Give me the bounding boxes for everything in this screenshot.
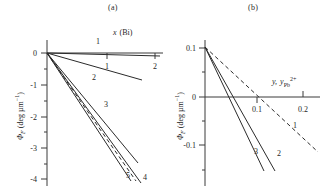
panel-b-xticklabel-0.2: 0.2 — [298, 105, 308, 114]
panel-b-yticklabel-0: 0 — [192, 93, 196, 102]
panel-a-curve-5 — [47, 53, 131, 181]
panel-a-yticklabel-0: 0 — [33, 49, 37, 58]
panel-a-curvelabel-4: 4 — [143, 173, 147, 182]
panel-a-yticklabel-1: -1 — [30, 81, 37, 90]
panel-a-curvelabel-5: 5 — [126, 171, 130, 180]
panel-a-curvelabel-2: 2 — [92, 73, 96, 82]
panel-a-x-axis-label: x(Bi) — [112, 28, 133, 37]
panel-b-yticklabel-neg0.1: -0.1 — [183, 141, 196, 150]
panel-b: (b) ΦF (deg µm−1) 0.1 0 -0.1 0.1 0.2 — [160, 0, 330, 190]
figure-container: (a) ΦF (deg µm−1) 0 -1 -2 -3 — [0, 0, 330, 190]
panel-b-x-axis-label: y,yPb2+ — [271, 76, 297, 88]
panel-b-plot: 0.1 0 -0.1 0.1 0.2 y,yPb2+ 1 2 3 — [160, 0, 330, 190]
panel-a-curvelabel-1: 1 — [96, 37, 100, 46]
panel-b-xticklabel-0.1: 0.1 — [252, 105, 262, 114]
panel-a: (a) ΦF (deg µm−1) 0 -1 -2 -3 — [0, 0, 170, 190]
panel-a-curvelabel-3: 3 — [104, 100, 108, 109]
panel-a-yticklabel-2: -2 — [30, 113, 37, 122]
panel-a-plot: 0 -1 -2 -3 -4 1 2 x(Bi) 1 2 3 4 5 — [0, 0, 170, 190]
panel-a-yticklabel-4: -4 — [30, 175, 37, 184]
panel-a-curve-3 — [47, 53, 138, 163]
panel-b-curvelabel-2: 2 — [277, 149, 281, 158]
panel-b-curve-1 — [205, 47, 318, 152]
panel-a-xticklabel-2: 2 — [153, 62, 157, 71]
panel-a-yticklabel-3: -3 — [30, 144, 37, 153]
panel-b-curve-2 — [205, 47, 275, 171]
panel-b-curvelabel-3: 3 — [254, 147, 258, 156]
panel-b-curvelabel-1: 1 — [293, 121, 297, 130]
panel-b-yticklabel-0.1: 0.1 — [186, 44, 196, 53]
